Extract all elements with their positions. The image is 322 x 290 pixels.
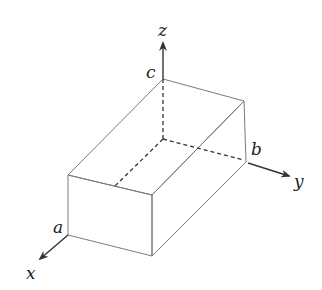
dimension-c-label: c bbox=[146, 62, 156, 82]
y-axis-arrow bbox=[248, 163, 289, 176]
box-front-face bbox=[68, 175, 152, 256]
y-axis-label: y bbox=[293, 171, 304, 191]
box-right-face bbox=[152, 101, 246, 256]
box-diagram: z y x c b a bbox=[0, 0, 322, 290]
dimension-b-label: b bbox=[251, 139, 262, 159]
z-axis-label: z bbox=[157, 20, 168, 40]
hidden-edge-x bbox=[115, 139, 163, 186]
x-axis-arrow bbox=[40, 235, 68, 259]
dimension-a-label: a bbox=[53, 217, 63, 237]
x-axis-label: x bbox=[26, 263, 36, 283]
box-top-face bbox=[68, 79, 244, 195]
